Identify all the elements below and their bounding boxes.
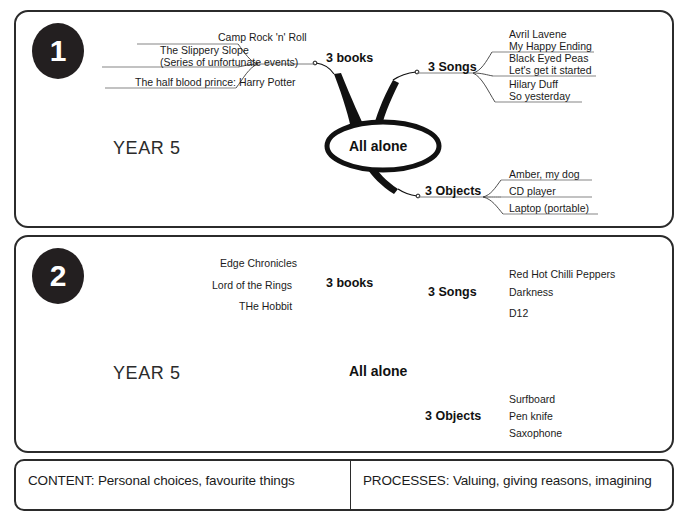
panel-1-song-leaf-1-artist: Avril Lavene <box>509 28 592 40</box>
panel-1-book-leaf-2-line-2: (Series of unfortunate events) <box>160 56 298 68</box>
footer-processes-cell: PROCESSES: Valuing, giving reasons, imag… <box>350 459 674 511</box>
footer-content-cell: CONTENT: Personal choices, favourite thi… <box>14 459 352 511</box>
panel-2-book-leaf-2: Lord of the Rings <box>212 279 292 291</box>
panel-2-book-leaf-3: THe Hobbit <box>239 300 292 312</box>
panel-1-song-leaf-3: Hilary Duff So yesterday <box>509 78 570 102</box>
panel-1-book-leaf-1: Camp Rock 'n' Roll <box>218 31 307 43</box>
panel-2-center-label: All alone <box>349 363 407 379</box>
panel-2-branch-objects-label: 3 Objects <box>425 409 481 423</box>
panel-1-book-leaf-3: The half blood prince: Harry Potter <box>135 76 296 88</box>
panel-2-branch-songs-label: 3 Songs <box>428 285 477 299</box>
panel-2-object-leaf-2: Pen knife <box>509 410 553 422</box>
panel-2-song-leaf-2: Darkness <box>509 286 553 298</box>
panel-1-book-leaf-2: The Slippery Slope (Series of unfortunat… <box>160 44 298 68</box>
panel-1-badge: 1 <box>32 23 84 79</box>
panel-1-branch-books-label: 3 books <box>326 51 373 65</box>
panel-1-song-leaf-1-title: My Happy Ending <box>509 40 592 52</box>
panel-1-song-leaf-2: Black Eyed Peas Let's get it started <box>509 52 592 76</box>
panel-1-object-leaf-3: Laptop (portable) <box>509 202 589 214</box>
panel-1-book-leaf-2-line-1: The Slippery Slope <box>160 44 298 56</box>
panel-2-song-leaf-3: D12 <box>509 307 528 319</box>
panel-1-object-leaf-2: CD player <box>509 185 556 197</box>
panel-1-center-label: All alone <box>349 138 407 154</box>
panel-2-branch-books-label: 3 books <box>326 276 373 290</box>
panel-1-song-leaf-1: Avril Lavene My Happy Ending <box>509 28 592 52</box>
panel-1-branch-objects-label: 3 Objects <box>425 184 481 198</box>
panel-2-object-leaf-3: Saxophone <box>509 427 562 439</box>
panel-1-song-leaf-3-artist: Hilary Duff <box>509 78 570 90</box>
panel-1-year-label: YEAR 5 <box>113 138 181 159</box>
panel-1-song-leaf-2-title: Let's get it started <box>509 64 592 76</box>
panel-1-branch-songs-label: 3 Songs <box>428 60 477 74</box>
panel-1-object-leaf-1: Amber, my dog <box>509 168 580 180</box>
panel-1-song-leaf-3-title: So yesterday <box>509 90 570 102</box>
panel-2-book-leaf-1: Edge Chronicles <box>220 257 297 269</box>
panel-2-song-leaf-1: Red Hot Chilli Peppers <box>509 268 615 280</box>
mindmap-worksheet: 1 YEAR 5 <box>0 0 687 521</box>
panel-2-badge: 2 <box>32 248 84 304</box>
panel-2-year-label: YEAR 5 <box>113 363 181 384</box>
panel-2-object-leaf-1: Surfboard <box>509 393 555 405</box>
panel-1-song-leaf-2-artist: Black Eyed Peas <box>509 52 592 64</box>
